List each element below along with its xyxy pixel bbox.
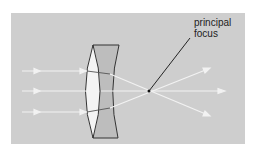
principal-focus-label: principal focus: [194, 17, 231, 39]
principal-focus-label-line1: principal: [194, 17, 231, 28]
principal-focus-point: [148, 90, 151, 93]
principal-focus-label-line2: focus: [194, 28, 231, 39]
